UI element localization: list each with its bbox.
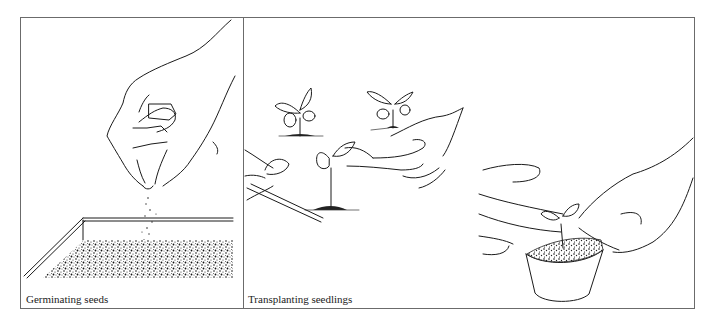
hand-with-dibber [245, 150, 323, 222]
panel-caption: Transplanting seedlings [248, 293, 352, 305]
potting-scene [479, 138, 693, 301]
seed-tray [24, 218, 233, 278]
panel-caption: Germinating seeds [26, 293, 108, 305]
germinating-seeds-illustration [21, 18, 243, 310]
hand-icon [345, 108, 463, 188]
figure-frame: Germinating seeds [20, 17, 695, 309]
hand-icon [107, 20, 235, 189]
seedling-icon [305, 142, 359, 210]
cropped-previous-caption [30, 0, 34, 6]
seedling-icon [367, 92, 413, 130]
panel-transplanting-seedlings: Transplanting seedlings [243, 18, 694, 308]
panel-germinating-seeds: Germinating seeds [21, 18, 244, 308]
soil-texture [43, 240, 233, 278]
transplanting-seedlings-illustration [243, 18, 696, 310]
seedling-icon [275, 88, 323, 136]
